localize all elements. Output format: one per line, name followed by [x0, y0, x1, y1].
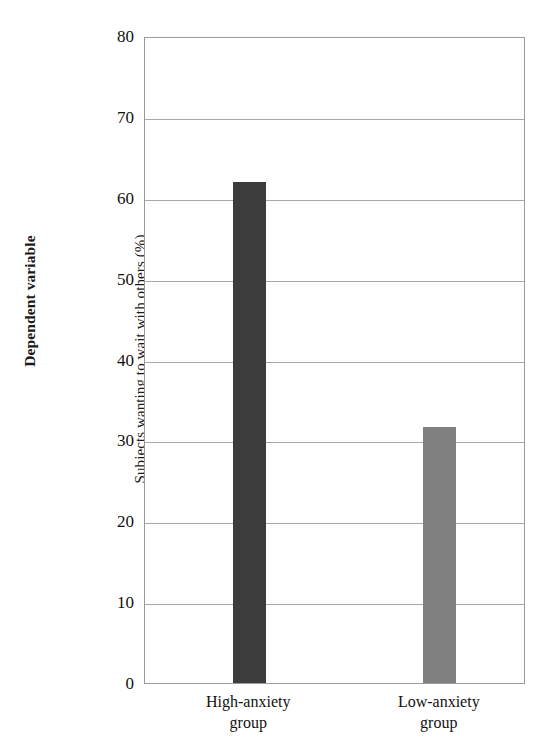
x-axis-category-labels: High-anxietygroupLow-anxietygroup — [144, 691, 525, 736]
y-tick-label: 70 — [90, 109, 134, 126]
gridline-60 — [145, 200, 524, 201]
y-tick-label: 0 — [90, 675, 134, 692]
x-category-label-line1: High-anxiety — [206, 693, 290, 710]
y-tick-label: 50 — [90, 271, 134, 288]
x-category-label-line2: group — [153, 712, 344, 733]
x-category-label-line1: Low-anxiety — [398, 693, 480, 710]
x-category-label: Low-anxietygroup — [344, 691, 535, 733]
y-tick-label: 60 — [90, 190, 134, 207]
gridline-40 — [145, 362, 524, 363]
bar — [233, 182, 266, 683]
gridline-70 — [145, 119, 524, 120]
x-category-label-line2: group — [344, 712, 535, 733]
plot-area — [144, 37, 525, 684]
bar-chart-figure: Dependent variable Subjects wanting to w… — [0, 0, 542, 736]
bar — [423, 427, 456, 683]
gridline-20 — [145, 523, 524, 524]
y-tick-label: 20 — [90, 513, 134, 530]
y-tick-label: 40 — [90, 352, 134, 369]
y-tick-label: 80 — [90, 28, 134, 45]
gridline-50 — [145, 281, 524, 282]
y-tick-label: 10 — [90, 594, 134, 611]
y-tick-label: 30 — [90, 432, 134, 449]
x-category-label: High-anxietygroup — [153, 691, 344, 733]
dependent-variable-axis-caption: Dependent variable — [19, 201, 41, 401]
y-axis-tick-labels: 80706050403020100 — [86, 37, 134, 684]
gridline-10 — [145, 604, 524, 605]
gridline-30 — [145, 442, 524, 443]
